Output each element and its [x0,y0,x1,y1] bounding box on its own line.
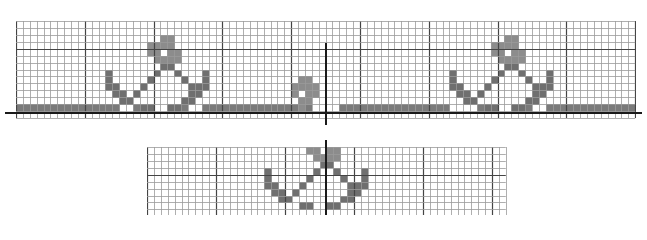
bottom-center-axis-line [325,140,327,215]
motif-cell [333,202,340,209]
border-band-cell [628,104,635,111]
border-band-cell [181,104,188,111]
motif-cell [470,97,477,104]
motif-cell [305,97,312,104]
motif-cell [147,76,154,83]
border-band-cell [443,104,450,111]
motif-cell [313,168,320,175]
motif-cell [299,182,306,189]
motif-cell [292,189,299,196]
motif-cell [188,97,195,104]
motif-cell [174,56,181,63]
motif-cell [498,70,505,77]
motif-cell [532,97,539,104]
motif-cell [312,90,319,97]
motif-cell [518,56,525,63]
motif-cell [546,83,553,90]
motif-cell [298,104,305,111]
center-axis-line [325,43,327,125]
motif-cell [306,202,313,209]
motif-cell [491,76,498,83]
motif-cell [195,90,202,97]
motif-cell [354,189,361,196]
motif-cell [491,104,498,111]
motif-cell [539,90,546,97]
motif-cell [140,83,147,90]
motif-cell [484,83,491,90]
border-band-cell [112,104,119,111]
motif-cell [306,175,313,182]
motif-cell [285,196,292,203]
motif-cell [361,182,368,189]
motif-cell [147,104,154,111]
motif-cell [126,97,133,104]
motif-cell [477,90,484,97]
border-band-cell [305,104,312,111]
motif-cell [347,196,354,203]
motif-cell [518,104,525,111]
motif-cell [202,83,209,90]
bottom-stitch-chart [147,147,507,215]
motif-cell [333,154,340,161]
border-band-cell [525,104,532,111]
horizontal-axis-line [5,112,642,114]
motif-cell [154,70,161,77]
motif-cell [133,90,140,97]
motif-cell [174,104,181,111]
